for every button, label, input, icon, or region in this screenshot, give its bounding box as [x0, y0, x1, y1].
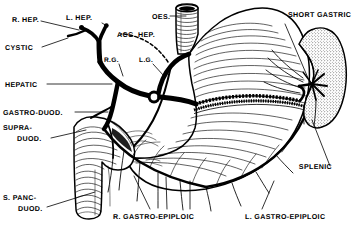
label-supra-duod-line1: SUPRA- — [3, 124, 33, 132]
label-cystic: CYSTIC — [5, 44, 33, 52]
label-hepatic: HEPATIC — [5, 81, 38, 89]
label-acc-hep: ACC. HEP. — [117, 31, 155, 39]
label-gastro-duod: GASTRO-DUOD. — [3, 109, 63, 117]
label-l-gastro-epiploic: L. GASTRO-EPIPLOIC — [245, 213, 325, 221]
label-rg: R.G. — [104, 57, 119, 64]
label-short-gastric: SHORT GASTRIC — [288, 11, 351, 19]
label-splenic: SPLENIC — [299, 163, 332, 171]
r-hepatic-terminal — [79, 25, 84, 30]
label-s-panc-duod-line2: DUOD. — [18, 205, 43, 213]
label-r-hep: R. HEP. — [12, 16, 39, 24]
figure-canvas: R. HEP. L. HEP. OES. SHORT GASTRIC CYSTI… — [0, 0, 359, 227]
celiac-ring-lumen — [151, 94, 158, 101]
label-l-hep: L. HEP. — [66, 14, 92, 22]
label-lg: L.G. — [139, 57, 153, 64]
label-supra-duod-line2: DUOD. — [17, 135, 42, 143]
anatomical-plate: R. HEP. L. HEP. OES. SHORT GASTRIC CYSTI… — [0, 0, 359, 227]
label-r-gastro-epiploic: R. GASTRO-EPIPLOIC — [113, 213, 194, 221]
label-s-panc-duod-line1: S. PANC- — [3, 194, 37, 202]
label-oes: OES. — [152, 13, 170, 21]
